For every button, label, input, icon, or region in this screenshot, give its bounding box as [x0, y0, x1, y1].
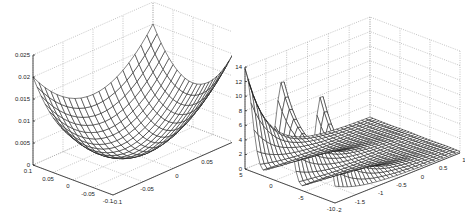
- z-tick-label: 0.005: [15, 140, 31, 146]
- z-tick-label: 0.01: [18, 118, 30, 124]
- x-tick-label: 0.05: [201, 159, 213, 165]
- left-surface-plot: 00.0050.010.0150.020.0250.10.050-0.05-0.…: [0, 0, 232, 224]
- z-tick-label: 6: [239, 122, 243, 128]
- z-tick-label: 0.025: [15, 52, 31, 58]
- z-tick-label: 0.02: [18, 74, 30, 80]
- x-tick-label: -0.1: [112, 199, 123, 205]
- z-tick-label: 8: [239, 108, 243, 114]
- x-tick-label: -2: [336, 207, 342, 213]
- z-tick-label: 12: [235, 79, 242, 85]
- right-surface-plot: 02468101214-10-505-2-1.5-1-0.500.51: [225, 0, 465, 224]
- right-plot-canvas: 02468101214-10-505-2-1.5-1-0.500.51: [225, 0, 465, 224]
- x-tick-label: 0: [421, 174, 425, 180]
- x-tick-label: -1: [378, 190, 384, 196]
- z-tick-label: 14: [235, 64, 242, 70]
- z-tick-label: 2: [239, 151, 243, 157]
- y-tick-label: -0.05: [81, 191, 95, 197]
- right-mesh: [245, 68, 460, 186]
- y-tick-label: 0.1: [24, 168, 33, 174]
- x-tick-label: 0.5: [439, 165, 448, 171]
- y-tick-label: 0: [269, 183, 273, 189]
- y-tick-label: 0: [66, 183, 70, 189]
- y-tick-label: -5: [298, 195, 304, 201]
- left-plot-canvas: 00.0050.010.0150.020.0250.10.050-0.05-0.…: [0, 0, 232, 224]
- y-tick-label: 5: [239, 172, 243, 178]
- y-tick-label: -10: [327, 206, 336, 212]
- y-tick-label: 0.05: [42, 176, 54, 182]
- x-tick-label: 0: [175, 173, 179, 179]
- x-tick-label: -0.5: [396, 182, 407, 188]
- z-tick-label: 4: [239, 137, 243, 143]
- z-tick-label: 0.015: [15, 96, 31, 102]
- x-tick-label: -1.5: [355, 199, 366, 205]
- x-tick-label: -0.05: [140, 186, 154, 192]
- z-tick-label: 10: [235, 93, 242, 99]
